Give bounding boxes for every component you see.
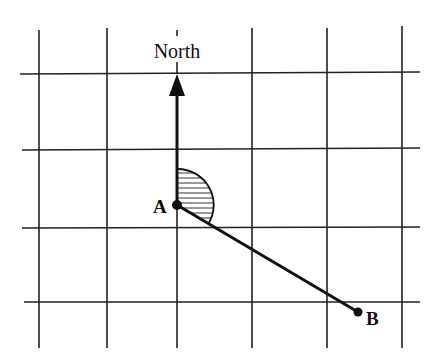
line-ab xyxy=(177,205,358,312)
bearing-diagram: North A B xyxy=(0,0,436,361)
grid-line-h xyxy=(22,148,420,150)
arrowhead-icon xyxy=(169,74,185,96)
point-b-label: B xyxy=(366,308,379,329)
north-arrow xyxy=(169,74,185,205)
point-a xyxy=(172,200,182,210)
north-label: North xyxy=(154,40,201,62)
grid-line-h xyxy=(22,227,420,228)
point-b xyxy=(354,308,363,317)
grid-line-h xyxy=(20,72,420,74)
grid xyxy=(20,26,420,348)
point-a-label: A xyxy=(153,196,167,217)
